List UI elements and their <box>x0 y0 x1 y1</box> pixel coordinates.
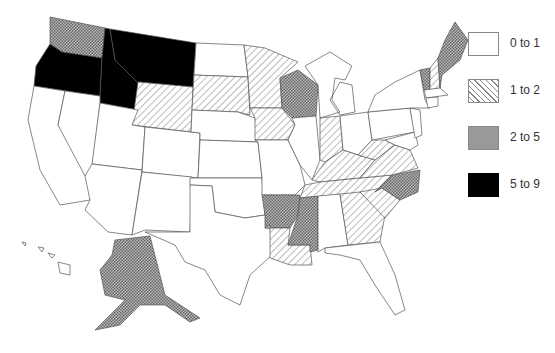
legend-label: 0 to 1 <box>510 36 540 50</box>
state-new-mexico <box>132 172 192 235</box>
legend-item-0-to-1: 0 to 1 <box>468 32 555 62</box>
legend-item-1-to-2: 1 to 2 <box>468 79 555 109</box>
state-south-dakota <box>192 75 250 115</box>
legend-label: 1 to 2 <box>510 83 540 97</box>
state-hawaii <box>22 242 70 275</box>
state-connecticut <box>426 97 438 108</box>
state-maine <box>438 22 468 88</box>
legend-item-2-to-5: 2 to 5 <box>468 126 555 156</box>
state-florida <box>325 242 405 315</box>
legend-swatch-hatched <box>468 79 499 103</box>
state-new-york <box>368 70 430 112</box>
state-colorado <box>142 127 200 178</box>
state-wyoming <box>132 82 193 132</box>
state-arkansas <box>262 195 300 228</box>
state-north-dakota <box>194 43 248 77</box>
legend-label: 2 to 5 <box>510 130 540 144</box>
legend-swatch-black <box>468 173 499 197</box>
state-massachusetts <box>424 88 448 98</box>
legend-item-5-to-9: 5 to 9 <box>468 173 555 203</box>
legend-swatch-white <box>468 32 499 56</box>
state-utah <box>92 103 145 170</box>
state-kansas <box>198 140 262 178</box>
legend-label: 5 to 9 <box>510 177 540 191</box>
legend-swatch-crosshatch <box>468 126 499 150</box>
